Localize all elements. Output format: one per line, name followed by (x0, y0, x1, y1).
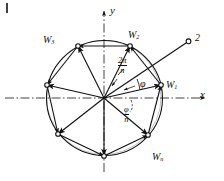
vertex-marker-v6 (102, 154, 107, 159)
chord-v6-wn (104, 135, 148, 156)
leader-phi-over-n (130, 100, 132, 112)
vertex-label-w1: W1 (166, 80, 177, 90)
figure-canvas (0, 0, 224, 181)
axis-y-label: y (110, 5, 115, 16)
vertex-marker-w1 (159, 83, 164, 88)
vertex-marker-w3 (76, 44, 81, 49)
chord-w3-v4 (47, 46, 78, 85)
angle-2pi-over-n-label: 2π n (118, 56, 127, 74)
chord-v4-v5 (47, 85, 58, 134)
vertex-label-wn: Wn (152, 152, 163, 162)
point-2-marker (186, 39, 191, 44)
vertex-marker-v4 (45, 83, 50, 88)
axis-x-label: x (200, 89, 205, 100)
vector-v4 (47, 85, 104, 98)
chord-v5-v6 (58, 134, 104, 156)
vertex-marker-v5 (56, 132, 61, 137)
vertex-label-w2: W2 (128, 30, 139, 40)
leader-phi (124, 86, 135, 90)
vertex-label-w3: W3 (43, 35, 54, 45)
vertex-marker-wn (146, 133, 151, 138)
vector-w3 (78, 46, 104, 98)
vector-v5 (58, 98, 104, 134)
point-2-label: 2 (195, 33, 200, 43)
angle-phi-label: φ (140, 79, 146, 89)
vertex-marker-w2 (128, 44, 133, 49)
angle-phi-over-n-label: φ n (124, 105, 129, 123)
